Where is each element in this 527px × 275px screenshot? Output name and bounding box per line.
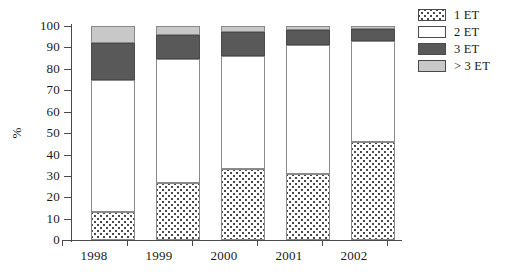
segment-1et-2001 — [286, 174, 330, 240]
segment-3et-1998 — [91, 43, 135, 79]
segment-3et-2000 — [221, 32, 265, 56]
white-swatch-icon — [418, 26, 446, 38]
x-tick-label-1999: 1999 — [129, 248, 189, 263]
segment-3et-2002 — [351, 29, 395, 41]
segment-2et-1999 — [156, 59, 200, 183]
segment-1et-2000 — [221, 169, 265, 240]
legend-label-gt3et: > 3 ET — [454, 59, 490, 73]
segment-2et-2002 — [351, 41, 395, 142]
legend-item-1et: 1 ET — [418, 8, 522, 23]
segment-2et-2000 — [221, 56, 265, 169]
y-tick-90 — [64, 47, 71, 48]
x-tick-2 — [192, 240, 193, 246]
segment-1et-1998 — [91, 212, 135, 240]
segment-3et-2001 — [286, 30, 330, 45]
y-tick-label-70: 70 — [28, 83, 60, 96]
legend: 1 ET 2 ET 3 ET > 3 ET — [418, 8, 522, 76]
x-tick-3 — [257, 240, 258, 246]
segment-gt3et-2000 — [221, 26, 265, 32]
y-tick-label-50: 50 — [28, 126, 60, 139]
dark-gray-swatch-icon — [418, 43, 446, 55]
x-tick-end — [387, 240, 388, 246]
y-tick-30 — [64, 176, 71, 177]
dotted-swatch-icon — [418, 9, 446, 21]
x-tick-label-2000: 2000 — [194, 248, 254, 263]
segment-gt3et-2001 — [286, 26, 330, 30]
y-tick-label-100: 100 — [28, 19, 60, 32]
segment-gt3et-1998 — [91, 26, 135, 43]
y-tick-60 — [64, 112, 71, 113]
y-tick-40 — [64, 155, 71, 156]
y-tick-label-30: 30 — [28, 169, 60, 182]
x-tick-start — [62, 240, 63, 246]
segment-1et-2002 — [351, 142, 395, 240]
legend-item-gt3et: > 3 ET — [418, 59, 522, 74]
x-tick-label-1998: 1998 — [64, 248, 124, 263]
y-tick-70 — [64, 90, 71, 91]
plot-area — [73, 26, 393, 240]
segment-2et-2001 — [286, 45, 330, 173]
y-axis-line — [71, 24, 72, 242]
x-axis-line — [62, 240, 402, 241]
legend-label-2et: 2 ET — [454, 25, 479, 39]
legend-item-2et: 2 ET — [418, 25, 522, 40]
bar-2000 — [221, 26, 265, 240]
legend-item-3et: 3 ET — [418, 42, 522, 57]
x-tick-1 — [127, 240, 128, 246]
x-tick-label-2001: 2001 — [259, 248, 319, 263]
segment-gt3et-1999 — [156, 26, 200, 35]
y-tick-label-20: 20 — [28, 190, 60, 203]
bar-2002 — [351, 26, 395, 240]
y-tick-label-10: 10 — [28, 212, 60, 225]
y-tick-100 — [64, 26, 71, 27]
y-tick-10 — [64, 219, 71, 220]
light-gray-swatch-icon — [418, 60, 446, 72]
y-tick-label-0: 0 — [28, 233, 60, 246]
bar-1999 — [156, 26, 200, 240]
bar-1998 — [91, 26, 135, 240]
y-tick-50 — [64, 133, 71, 134]
y-tick-20 — [64, 197, 71, 198]
bar-2001 — [286, 26, 330, 240]
x-tick-4 — [322, 240, 323, 246]
legend-label-1et: 1 ET — [454, 8, 479, 22]
y-tick-label-60: 60 — [28, 105, 60, 118]
y-tick-label-80: 80 — [28, 62, 60, 75]
segment-3et-1999 — [156, 35, 200, 60]
segment-2et-1998 — [91, 80, 135, 213]
y-tick-80 — [64, 69, 71, 70]
segment-1et-1999 — [156, 183, 200, 240]
segment-gt3et-2002 — [351, 26, 395, 29]
x-tick-label-2002: 2002 — [324, 248, 384, 263]
y-tick-label-40: 40 — [28, 148, 60, 161]
stacked-bar-chart: % 100 90 80 70 60 50 40 30 20 10 0 — [0, 0, 527, 275]
legend-label-3et: 3 ET — [454, 42, 479, 56]
y-tick-label-90: 90 — [28, 40, 60, 53]
